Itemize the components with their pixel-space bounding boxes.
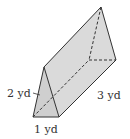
triangular-prism-diagram <box>0 0 130 139</box>
base-label-1yd: 1 yd <box>34 124 58 135</box>
length-label-3yd: 3 yd <box>97 90 121 101</box>
edge-label-2yd: 2 yd <box>7 88 31 99</box>
